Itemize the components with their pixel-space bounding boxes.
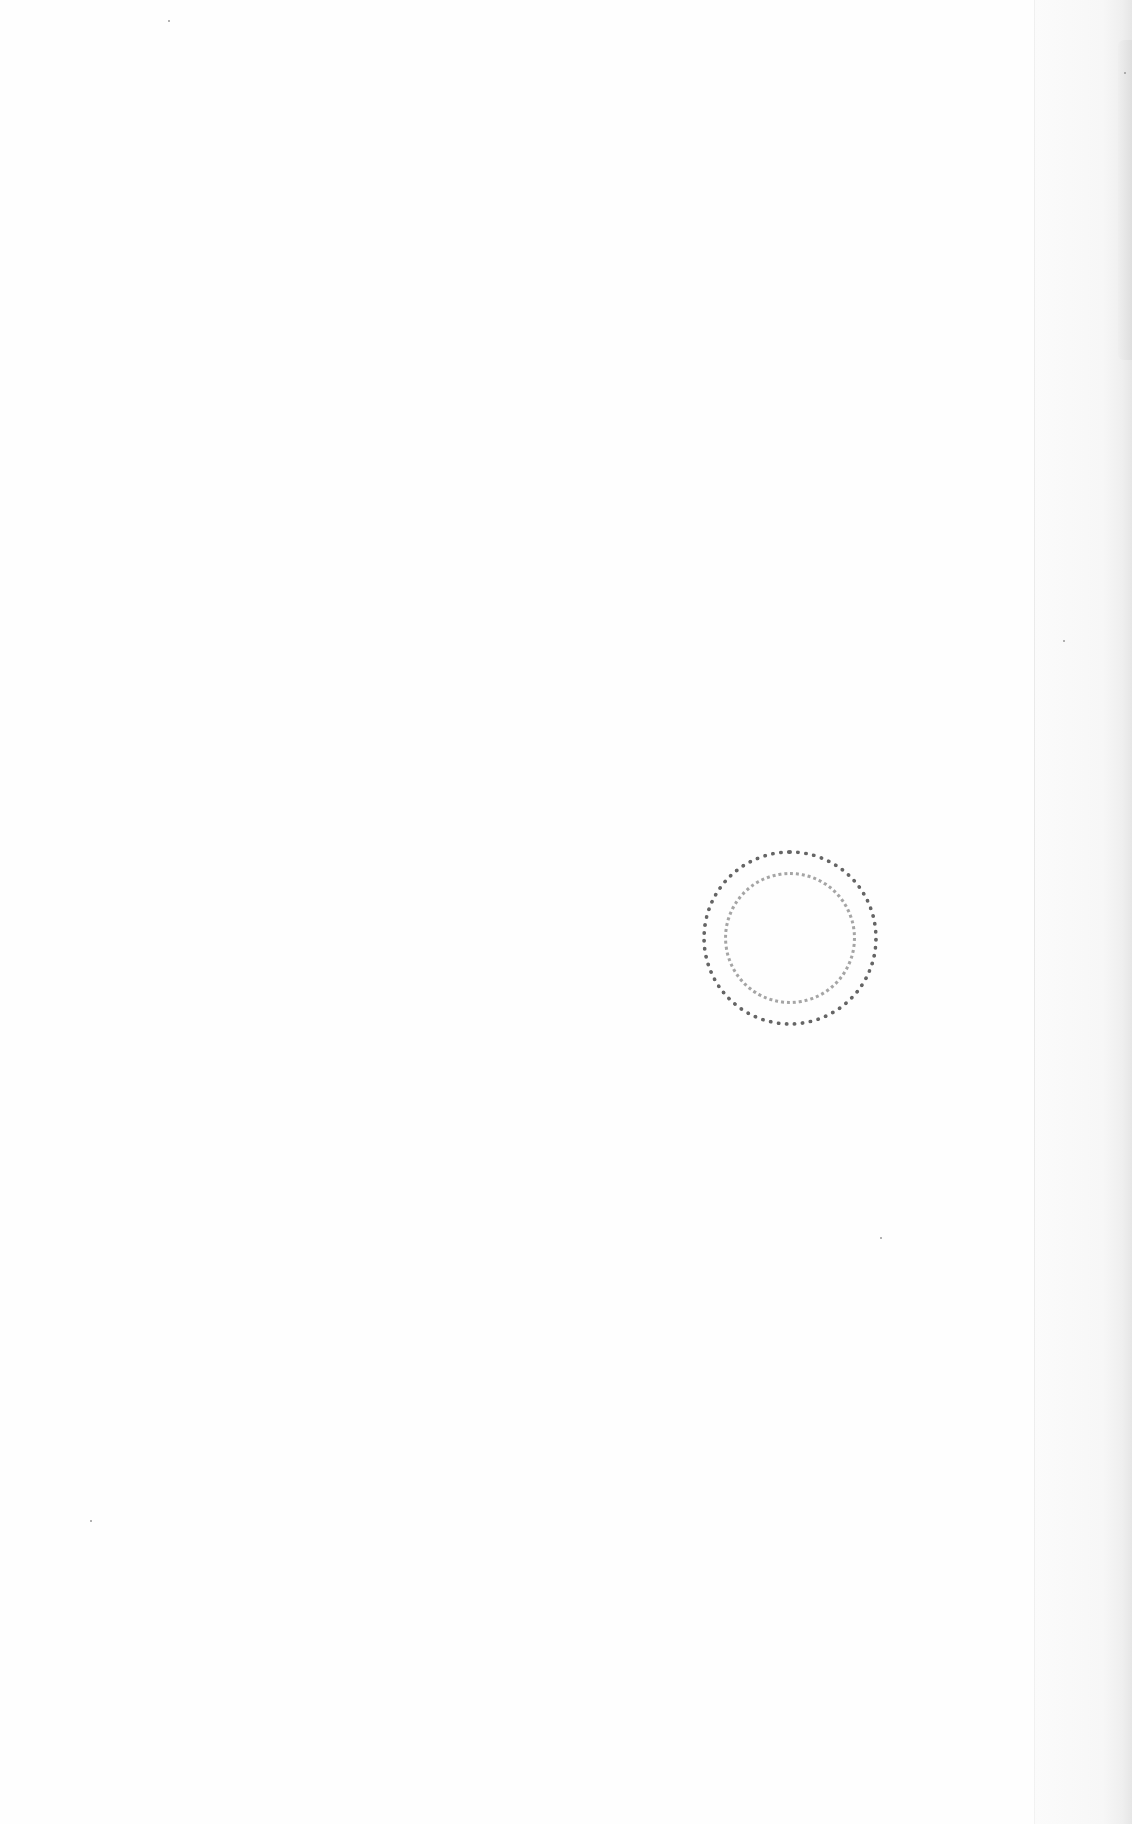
scan-speck [168,20,170,22]
scan-speck [1063,640,1065,642]
scanned-page [0,0,1132,1824]
scan-speck [1124,72,1126,74]
page-edge-shadow [1118,40,1132,360]
scan-speck [90,1520,92,1522]
scan-speck [880,1237,882,1239]
circular-stamp [702,850,878,1026]
stamp-inner-ring [724,872,856,1004]
